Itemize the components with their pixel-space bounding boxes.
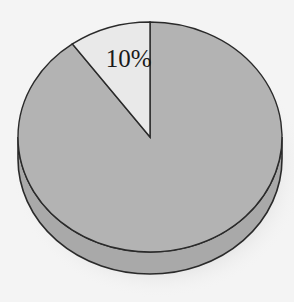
pie-chart: 10%: [0, 0, 294, 302]
slice-label-10-percent: 10%: [106, 45, 152, 72]
